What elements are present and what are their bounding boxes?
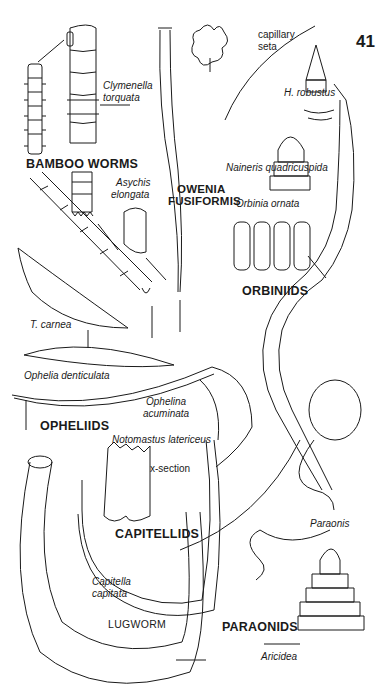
label-orbinia-ornata: Orbinia ornata [236,198,299,209]
label-clymenella-species: torquata [103,92,140,103]
label-capillary: capillary [258,29,295,40]
orbinia-ornata-drawing [234,222,326,278]
label-paraonids: PARAONIDS [222,621,298,635]
label-x-section: x-section [150,463,190,474]
t-carnea-drawing [18,248,128,328]
lugworm-drawing [20,456,206,683]
label-ophelia-denticulata: Ophelia denticulata [24,370,110,381]
label-capitella-genus: Capitella [92,576,131,587]
label-capitella-species: capitata [92,588,127,599]
label-clymenella-genus: Clymenella [103,80,152,91]
label-naineris: Naineris quadricuspida [226,162,328,173]
worm-illustrations [0,0,390,696]
label-opheliids: OPHELIIDS [40,420,109,434]
label-asychis-species: elongata [111,189,149,200]
label-paraonis: Paraonis [310,518,349,529]
owenia-tube-drawing [158,28,182,332]
label-h-robustus: H. robustus [284,87,335,98]
clymenella-small-drawing [24,40,64,154]
page-number: 41 [356,33,375,52]
illustration-plate: 41 Clymenella torquata BAMBOO WORMS Asyc… [0,0,390,696]
label-ophelina-genus: Ophelina [146,396,186,407]
label-fusiformis: FUSIFORMIS [168,195,241,208]
owenia-crown-drawing [192,25,228,72]
paraonis-drawing [250,440,334,580]
label-lugworm: LUGWORM [108,619,166,631]
label-ophelina-species: acuminata [143,408,189,419]
ophelia-drawing [12,347,252,467]
label-seta: seta [258,41,277,52]
label-aricidea: Aricidea [261,651,297,662]
label-notomastus: Notomastus latericeus [112,434,211,445]
x-section-drawing [104,442,150,521]
label-orbiniids: ORBINIIDS [242,285,308,299]
label-bamboo-worms: BAMBOO WORMS [26,158,138,172]
label-t-carnea: T. carnea [30,319,71,330]
label-asychis-genus: Asychis [116,177,150,188]
label-capitellids: CAPITELLIDS [115,528,199,542]
label-owenia: OWENIA [177,183,225,196]
